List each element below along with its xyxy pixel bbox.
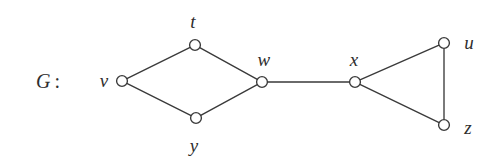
- vertex-node-z: [439, 120, 450, 131]
- vertex-node-y: [191, 113, 202, 124]
- vertex-label-v: v: [100, 71, 109, 90]
- edges-group: [127, 45, 444, 122]
- vertex-node-w: [257, 77, 268, 88]
- edge-v-t: [127, 47, 190, 78]
- vertex-label-z: z: [464, 118, 472, 137]
- vertex-node-t: [190, 40, 201, 51]
- vertex-label-y: y: [190, 136, 199, 155]
- edge-y-w: [201, 85, 258, 116]
- graph-drawing: [0, 0, 501, 165]
- edge-x-u: [360, 45, 439, 80]
- vertex-node-u: [439, 38, 450, 49]
- vertex-label-w: w: [258, 50, 271, 69]
- vertex-node-x: [350, 77, 361, 88]
- vertices-group: [117, 38, 450, 131]
- edge-t-w: [200, 48, 258, 80]
- vertex-label-t: t: [190, 12, 195, 31]
- vertex-node-v: [117, 76, 128, 87]
- graph-figure: G: vtywxuz: [0, 0, 501, 165]
- edge-x-z: [360, 84, 439, 122]
- vertex-label-u: u: [464, 33, 474, 52]
- edge-v-y: [127, 83, 191, 115]
- vertex-label-x: x: [350, 50, 359, 69]
